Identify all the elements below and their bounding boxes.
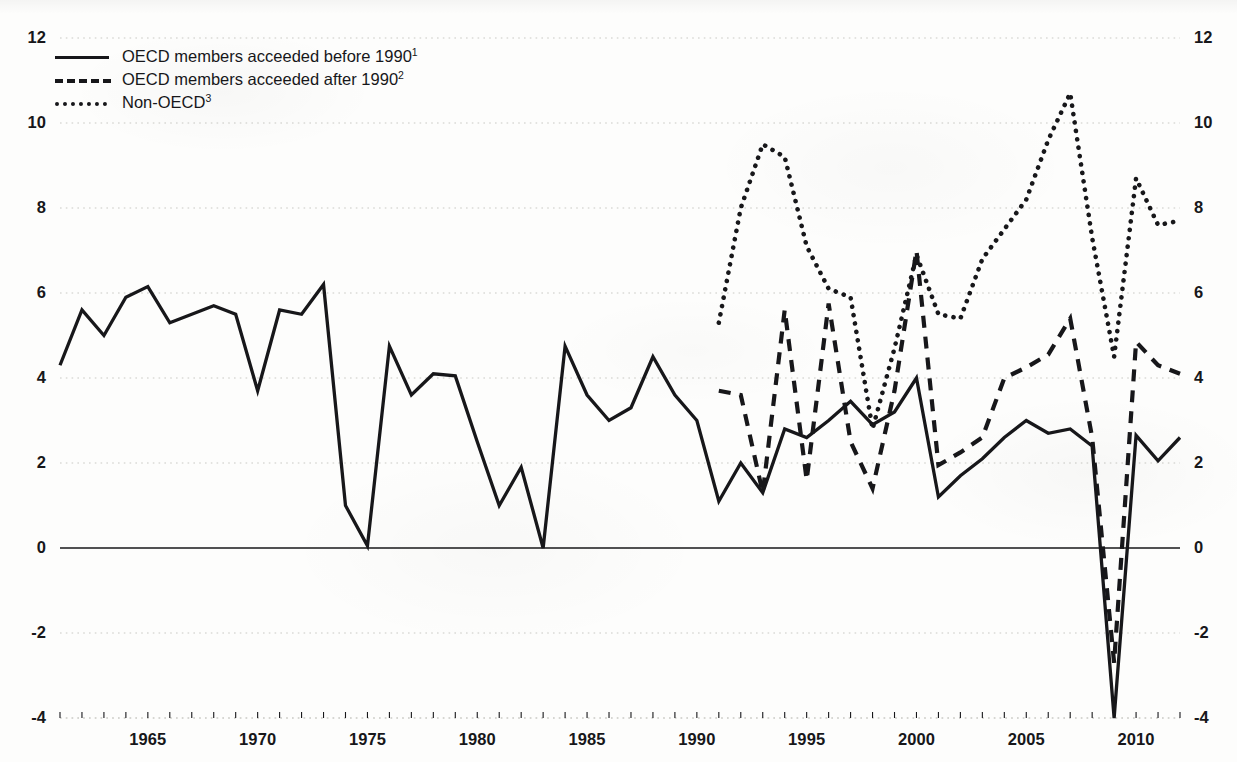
- gridlines-group: [60, 38, 1180, 718]
- series-line-solid: [60, 285, 1180, 719]
- legend-footnote-1: 1: [412, 46, 418, 58]
- legend-swatch-dashed-line-icon: [55, 73, 109, 87]
- x-axis-ticks: [60, 712, 1180, 718]
- legend-label-non-oecd: Non-OECD3: [122, 94, 211, 111]
- chart-plot-area: [0, 0, 1237, 762]
- series-line-dashed: [719, 251, 1180, 663]
- legend-swatch-dotted-line-icon: [55, 96, 109, 110]
- legend-label-oecd-before-1990: OECD members acceeded before 19901: [122, 48, 418, 65]
- legend-footnote-3: 3: [205, 92, 211, 104]
- legend-label-oecd-after-1990: OECD members acceeded after 19902: [122, 71, 404, 88]
- chart-figure: OECD members acceeded before 19901 OECD …: [0, 0, 1237, 762]
- legend-item-oecd-after-1990[interactable]: OECD members acceeded after 19902: [55, 68, 418, 91]
- series-lines-group: [60, 93, 1180, 718]
- legend-item-oecd-before-1990[interactable]: OECD members acceeded before 19901: [55, 45, 418, 68]
- chart-legend: OECD members acceeded before 19901 OECD …: [55, 45, 418, 114]
- legend-item-non-oecd[interactable]: Non-OECD3: [55, 91, 418, 114]
- legend-swatch-solid-line-icon: [55, 50, 109, 64]
- series-line-dotted: [719, 93, 1180, 429]
- legend-footnote-2: 2: [398, 69, 404, 81]
